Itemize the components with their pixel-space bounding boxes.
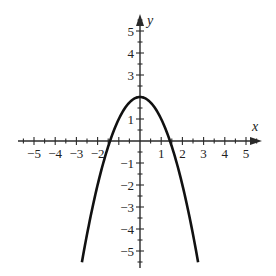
parabola-chart: −5−4−3−2123455431−1−2−3−4−5 x y (0, 0, 276, 276)
y-tick-label: 3 (128, 68, 135, 83)
x-tick-label: −2 (91, 146, 105, 161)
x-tick-label: −4 (48, 146, 62, 161)
x-axis-arrow-icon (250, 137, 262, 145)
y-tick-label: −3 (120, 200, 134, 215)
x-tick-label: 3 (200, 146, 207, 161)
axes (18, 14, 262, 268)
x-tick-label: −5 (27, 146, 41, 161)
y-tick-label: −5 (120, 244, 134, 259)
y-tick-label: 1 (128, 112, 135, 127)
y-tick-label: 4 (128, 46, 135, 61)
y-tick-label: −2 (120, 178, 134, 193)
x-tick-label: −3 (69, 146, 83, 161)
x-tick-label: 4 (222, 146, 229, 161)
x-axis-label: x (251, 119, 259, 134)
x-tick-label: 2 (179, 146, 186, 161)
y-tick-label: 5 (128, 24, 135, 39)
y-tick-label: −1 (120, 156, 134, 171)
y-tick-label: −4 (120, 222, 134, 237)
x-tick-label: 5 (243, 146, 250, 161)
x-tick-label: 1 (158, 146, 165, 161)
y-axis-label: y (145, 13, 154, 28)
